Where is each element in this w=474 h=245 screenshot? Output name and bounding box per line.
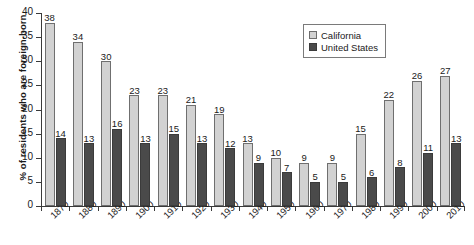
bar-value-label: 16	[112, 119, 123, 129]
legend-item-california[interactable]: California	[309, 29, 378, 41]
bar-california-1990: 22	[384, 100, 394, 206]
bar-california-2000: 26	[412, 81, 422, 206]
bar-value-label: 23	[129, 86, 140, 96]
bar-united-states-1900: 13	[140, 143, 150, 206]
bar-california-1910: 23	[158, 95, 168, 206]
x-axis-tick	[69, 206, 70, 211]
bar-united-states-1990: 8	[395, 167, 405, 206]
bar-united-states-1930: 12	[225, 148, 235, 206]
bar-value-label: 21	[186, 95, 197, 105]
bar-value-label: 9	[330, 153, 335, 163]
bar-value-label: 9	[256, 153, 261, 163]
bar-value-label: 13	[197, 134, 208, 144]
chart-legend: CaliforniaUnited States	[303, 24, 386, 58]
bar-value-label: 11	[423, 143, 433, 153]
bar-california-1930: 19	[214, 114, 224, 206]
bar-california-1900: 23	[129, 95, 139, 206]
bar-value-label: 9	[301, 153, 306, 163]
bar-california-1960: 9	[299, 163, 309, 206]
x-axis-tick	[182, 206, 183, 211]
bar-value-label: 15	[168, 124, 179, 134]
bar-value-label: 23	[157, 86, 168, 96]
legend-swatch-icon	[309, 43, 317, 51]
bar-value-label: 8	[397, 158, 402, 168]
bar-value-label: 38	[44, 13, 55, 23]
y-axis-tick: 15	[36, 134, 41, 135]
y-axis-tick-label: 25	[22, 78, 33, 89]
bar-california-2010: 27	[440, 76, 450, 206]
bar-value-label: 5	[312, 172, 317, 182]
y-axis-tick: 20	[36, 110, 41, 111]
bar-value-label: 13	[84, 134, 95, 144]
bar-value-label: 15	[355, 124, 366, 134]
bar-united-states-1940: 9	[254, 163, 264, 206]
bar-value-label: 13	[140, 134, 151, 144]
x-axis-tick	[352, 206, 353, 211]
bar-california-1940: 13	[243, 143, 253, 206]
bar-united-states-1980: 6	[367, 177, 377, 206]
bar-california-1950: 10	[271, 158, 281, 206]
bar-california-1920: 21	[186, 105, 196, 206]
x-axis-tick	[380, 206, 381, 211]
bar-value-label: 13	[242, 134, 253, 144]
foreign-born-population-bar-chart: % of residents who are foreign-born 0510…	[0, 0, 474, 245]
bar-value-label: 26	[412, 71, 423, 81]
bar-value-label: 34	[73, 32, 84, 42]
bar-united-states-1910: 15	[169, 134, 179, 206]
y-axis-tick-label: 15	[22, 127, 33, 138]
bar-california-1890: 30	[101, 61, 111, 206]
bar-united-states-1870: 14	[56, 138, 66, 206]
x-axis-tick	[211, 206, 212, 211]
x-axis-tick	[239, 206, 240, 211]
legend-swatch-icon	[309, 31, 317, 39]
x-axis-tick	[464, 206, 465, 211]
x-axis-tick	[154, 206, 155, 211]
bar-united-states-1970: 5	[338, 182, 348, 206]
bar-value-label: 30	[101, 52, 112, 62]
bar-united-states-2000: 11	[423, 153, 433, 206]
bar-california-1970: 9	[327, 163, 337, 206]
y-axis-tick-label: 35	[22, 30, 33, 41]
legend-item-united-states[interactable]: United States	[309, 41, 378, 53]
bar-united-states-1960: 5	[310, 182, 320, 206]
y-axis-tick-label: 40	[22, 6, 33, 17]
y-axis-tick-label: 20	[22, 103, 33, 114]
bar-united-states-1920: 13	[197, 143, 207, 206]
bar-california-1980: 15	[356, 134, 366, 206]
y-axis-tick-label: 30	[22, 54, 33, 65]
legend-item-label: California	[321, 30, 361, 41]
bar-value-label: 19	[214, 105, 225, 115]
y-axis-tick: 10	[36, 158, 41, 159]
y-axis-tick-label: 0	[27, 199, 33, 210]
bar-california-1870: 38	[45, 23, 55, 206]
x-axis-tick	[41, 206, 42, 211]
y-axis-tick-label: 5	[27, 175, 33, 186]
bar-value-label: 6	[369, 168, 374, 178]
x-axis-tick	[295, 206, 296, 211]
bar-value-label: 12	[225, 139, 236, 149]
plot-area: 0510152025303540 18701880189019001910192…	[41, 13, 465, 207]
y-axis-tick: 40	[36, 13, 41, 14]
bar-value-label: 13	[451, 134, 462, 144]
bar-value-label: 22	[384, 90, 395, 100]
bar-united-states-1950: 7	[282, 172, 292, 206]
x-axis-tick	[324, 206, 325, 211]
x-axis-tick	[267, 206, 268, 211]
bar-value-label: 14	[55, 129, 66, 139]
legend-item-label: United States	[321, 42, 378, 53]
y-axis-tick: 35	[36, 37, 41, 38]
y-axis-tick-label: 10	[22, 151, 33, 162]
y-axis-line	[41, 13, 42, 207]
bar-value-label: 5	[341, 172, 346, 182]
bar-value-label: 10	[270, 148, 281, 158]
x-axis-tick	[408, 206, 409, 211]
y-axis-tick: 25	[36, 85, 41, 86]
x-axis-tick	[98, 206, 99, 211]
x-axis-tick	[437, 206, 438, 211]
y-axis-tick: 5	[36, 182, 41, 183]
bar-value-label: 27	[440, 66, 451, 76]
y-axis-tick: 30	[36, 61, 41, 62]
bar-california-1880: 34	[73, 42, 83, 206]
x-axis-tick	[126, 206, 127, 211]
bar-value-label: 7	[284, 163, 289, 173]
